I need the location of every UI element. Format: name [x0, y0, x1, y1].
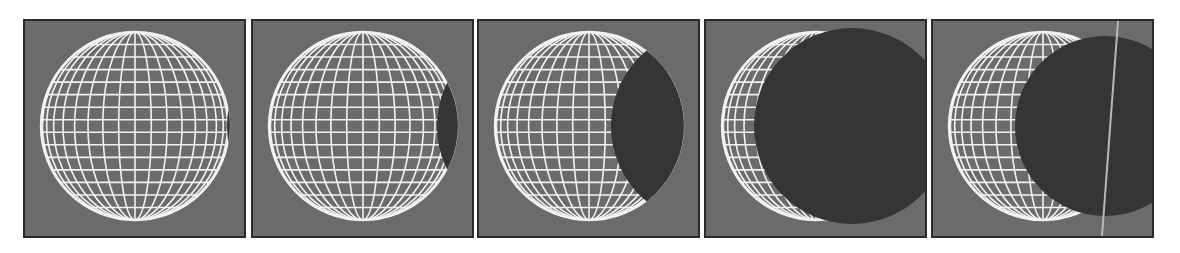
occluding-sphere [437, 28, 472, 224]
frame-1 [23, 19, 246, 238]
wireframe-globe-frame-3 [479, 21, 698, 236]
frame-3 [477, 19, 700, 238]
wireframe-globe-frame-2 [253, 21, 472, 236]
frame-2 [251, 19, 474, 238]
wireframe-globe-frame-4 [706, 21, 925, 236]
occluding-sphere [1015, 36, 1152, 216]
wireframe-globe-frame-1 [25, 21, 244, 236]
wireframe-globe-frame-5 [933, 21, 1152, 236]
frame-4 [704, 19, 927, 238]
frame-5 [931, 19, 1154, 238]
eclipse-sequence-figure [0, 0, 1180, 253]
occluding-sphere [227, 28, 244, 224]
